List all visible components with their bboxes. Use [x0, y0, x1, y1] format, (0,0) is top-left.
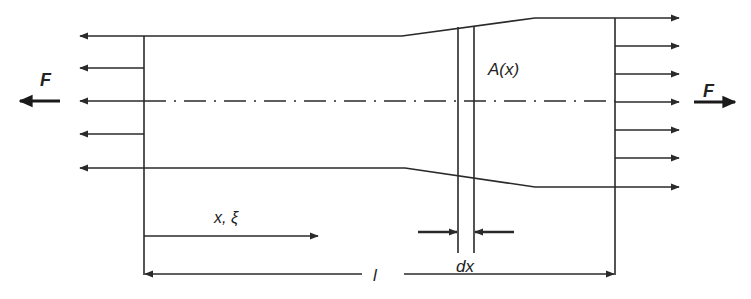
length-label: l [373, 266, 378, 285]
top-profile [144, 18, 615, 36]
area-label: A(x) [487, 60, 519, 79]
element-width-label: dx [456, 257, 474, 276]
bar-diagram: F F A(x) x, ξ l dx [0, 0, 751, 299]
bottom-profile [144, 168, 615, 187]
force-right-label: F [703, 81, 715, 101]
coordinate-label: x, ξ [213, 209, 239, 227]
force-left-label: F [40, 70, 52, 90]
